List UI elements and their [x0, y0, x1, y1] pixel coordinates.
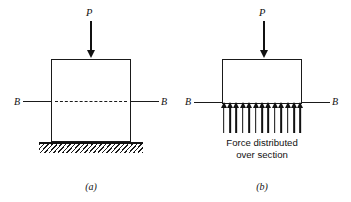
section-lead-left-b	[194, 102, 222, 103]
load-label-p-b: P	[259, 8, 265, 19]
section-label-b-right-a: B	[161, 97, 167, 107]
arrow-stem	[235, 107, 237, 133]
caption-a: (a)	[71, 182, 111, 192]
note-line-1: Force distributed	[226, 137, 297, 148]
ground-hatching	[39, 144, 143, 153]
distributed-force-arrow	[266, 102, 271, 133]
distributed-force-arrow	[234, 102, 239, 133]
section-lead-left-a	[23, 101, 51, 102]
arrow-stem	[229, 107, 231, 133]
caption-b: (b)	[242, 182, 282, 192]
distributed-force-arrow	[259, 102, 264, 133]
distributed-force-arrow	[298, 102, 303, 133]
section-lead-right-a	[131, 101, 159, 102]
arrow-stem	[261, 107, 263, 133]
arrow-stem	[223, 107, 225, 133]
load-label-p-a: P	[86, 8, 92, 19]
arrow-stem	[274, 107, 276, 133]
distributed-force-arrow	[285, 102, 290, 133]
distributed-force-arrow	[240, 102, 245, 133]
section-line-a	[55, 101, 127, 102]
load-arrow-shaft-b	[263, 21, 265, 52]
distributed-force-note: Force distributed over section	[197, 137, 327, 160]
arrow-stem	[287, 107, 289, 133]
distributed-force-arrow	[247, 102, 252, 133]
distributed-force-arrow	[279, 102, 284, 133]
load-arrow-shaft-a	[90, 21, 92, 52]
distributed-force-arrow	[221, 102, 226, 133]
distributed-force-arrow	[253, 102, 258, 133]
section-label-b-left-b: B	[185, 97, 191, 107]
mechanics-figure: P B B (a) P B B Force distribut	[0, 0, 351, 202]
section-label-b-left-a: B	[14, 97, 20, 107]
arrow-stem	[242, 107, 244, 133]
arrow-stem	[280, 107, 282, 133]
distributed-force-arrows	[221, 102, 303, 133]
arrow-stem	[248, 107, 250, 133]
block-b	[222, 59, 302, 104]
arrow-stem	[268, 107, 270, 133]
arrow-stem	[293, 107, 295, 133]
load-arrow-head-b	[260, 50, 268, 58]
arrow-stem	[255, 107, 257, 133]
section-label-b-right-b: B	[332, 97, 338, 107]
distributed-force-arrow	[272, 102, 277, 133]
distributed-force-arrow	[227, 102, 232, 133]
arrow-stem	[300, 107, 302, 133]
panel-a: P B B (a)	[0, 0, 176, 202]
note-line-2: over section	[236, 149, 288, 160]
panel-b: P B B Force distributed over section (b)	[175, 0, 351, 202]
section-lead-right-b	[302, 102, 330, 103]
distributed-force-arrow	[291, 102, 296, 133]
load-arrow-head-a	[87, 50, 95, 58]
